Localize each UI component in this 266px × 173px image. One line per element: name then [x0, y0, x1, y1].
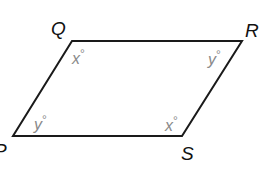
vertex-label-p: P: [0, 140, 7, 161]
angle-s-degree: °: [173, 114, 178, 128]
angle-label-r: y°: [207, 48, 221, 68]
vertex-label-q: Q: [51, 18, 66, 39]
parallelogram-diagram: Q R S P x° y° x° y°: [0, 0, 266, 173]
angle-label-s: x°: [164, 114, 178, 134]
angle-label-q: x°: [71, 47, 85, 67]
angle-label-p: y°: [33, 113, 47, 133]
angle-r-degree: °: [216, 48, 221, 62]
vertex-label-r: R: [245, 20, 259, 41]
angle-q-degree: °: [80, 47, 85, 61]
angle-p-degree: °: [42, 113, 47, 127]
vertex-label-s: S: [181, 143, 194, 164]
